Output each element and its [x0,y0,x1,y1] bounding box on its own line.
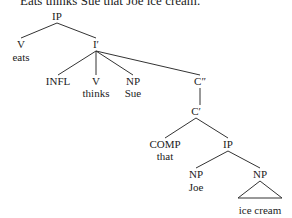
tree-node-w-icecream: ice cream [239,204,281,216]
tree-edge [196,118,228,138]
syntax-tree-lines [0,0,292,218]
tree-edge [165,118,196,138]
tree-edge [228,151,260,168]
tree-node-comp: COMP [149,138,180,150]
tree-node-w-eats: eats [12,51,29,63]
tree-edge [58,51,96,75]
tree-edge [96,51,133,75]
tree-node-ibar: I′ [93,38,99,50]
tree-node-np-joe: NP [189,168,203,180]
tree-node-v-eats: V [17,38,25,50]
tree-node-infl: INFL [46,75,70,87]
tree-edge [57,23,96,38]
tree-edge [96,51,200,75]
tree-node-cbar: C′ [191,105,201,117]
tree-node-v-thinks: V [92,75,100,87]
tree-node-ip-emb: IP [223,138,233,150]
tree-node-w-joe: Joe [189,181,204,193]
triangle-abbreviation [238,181,282,198]
tree-node-w-thinks: thinks [83,87,110,99]
tree-node-ip-root: IP [52,10,62,22]
tree-node-cdbl: C″ [194,75,206,87]
tree-node-np-ic: NP [253,168,267,180]
tree-edge [21,23,57,38]
tree-node-np-sue: NP [126,75,140,87]
tree-node-w-sue: Sue [125,87,142,99]
tree-edge [196,151,228,168]
tree-node-w-that: that [157,150,174,162]
